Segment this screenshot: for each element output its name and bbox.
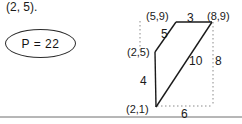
side-length-right: 8 — [215, 55, 222, 67]
side-length-left: 4 — [140, 75, 147, 87]
side-length-top: 3 — [187, 12, 194, 24]
side-length-slant: 5 — [161, 28, 168, 40]
vertex-label-top-right: (8,9) — [207, 10, 230, 22]
vertex-label-mid-left: (2,5) — [127, 46, 150, 58]
vertex-label-top-left: (5,9) — [146, 10, 169, 22]
side-length-diagonal: 10 — [189, 55, 202, 67]
vertex-label-bottom: (2,1) — [126, 103, 149, 115]
edge-left — [155, 52, 156, 107]
figure-diagram — [0, 0, 242, 124]
side-length-bottom: 6 — [181, 108, 188, 120]
geometry-figure-page: (2, 5). P = 22 (5,9) (8,9) (2,5) (2,1) 3… — [0, 0, 242, 124]
